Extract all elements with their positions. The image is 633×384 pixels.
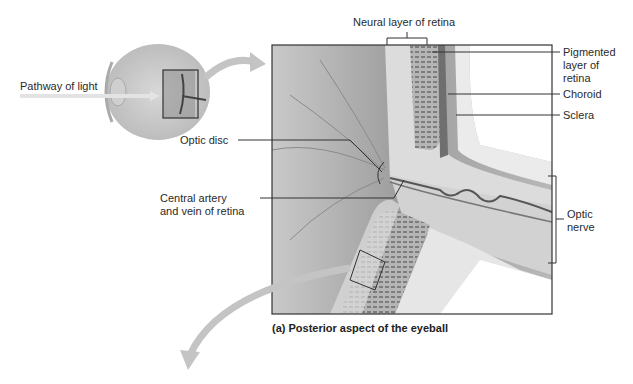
zoom-arrow-top [205, 60, 255, 78]
pigmented-layer-label: Pigmented layer of retina [563, 46, 616, 85]
pathway-of-light-label: Pathway of light [20, 80, 98, 93]
optic-disc-label: Optic disc [180, 134, 228, 147]
central-artery-label: Central artery and vein of retina [160, 192, 244, 218]
optic-nerve-label: Optic nerve [567, 208, 595, 234]
figure-caption: (a) Posterior aspect of the eyeball [272, 322, 448, 334]
neural-layer-label: Neural layer of retina [353, 16, 455, 29]
choroid-label: Choroid [563, 88, 602, 101]
sclera-label: Sclera [563, 109, 594, 122]
